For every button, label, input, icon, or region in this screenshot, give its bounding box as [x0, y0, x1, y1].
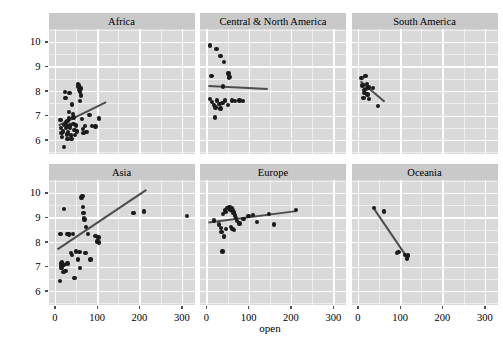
data-point [209, 74, 213, 78]
x-tick-mark [97, 306, 98, 309]
chart-root: logy open AfricaCentral & North AmericaS… [0, 0, 503, 342]
x-tick-mark [206, 306, 207, 309]
data-point [142, 209, 146, 213]
x-tick-mark [248, 306, 249, 309]
regression-line [200, 29, 346, 154]
data-point [58, 232, 62, 236]
data-point [220, 101, 224, 105]
y-tick-mark [45, 217, 48, 218]
x-tick-label: 200 [126, 311, 152, 324]
data-point [218, 106, 222, 110]
facet-strip-label: South America [352, 13, 498, 29]
data-point [74, 123, 78, 127]
facet-panel [200, 29, 346, 154]
data-point [93, 124, 97, 128]
y-tick-mark [45, 66, 48, 67]
y-tick-label: 6 [19, 134, 41, 147]
data-point [220, 249, 224, 253]
facet-strip-label: Asia [49, 164, 195, 180]
x-tick-label: 100 [84, 311, 110, 324]
data-point [363, 74, 367, 78]
data-point [81, 211, 85, 215]
data-point [65, 119, 69, 123]
data-point [67, 91, 71, 95]
data-point [131, 211, 135, 215]
x-tick-label: 300 [169, 311, 195, 324]
y-axis-title: logy [0, 161, 38, 177]
facet-panel [352, 29, 498, 154]
x-tick-label: 100 [387, 311, 413, 324]
y-tick-label: 6 [19, 285, 41, 298]
data-point [69, 137, 73, 141]
facet-strip-label: Africa [49, 13, 195, 29]
y-tick-label: 10 [19, 35, 41, 48]
data-point [212, 218, 216, 222]
y-tick-label: 7 [19, 260, 41, 273]
x-tick-mark [400, 306, 401, 309]
y-tick-mark [45, 266, 48, 267]
x-tick-label: 0 [42, 311, 68, 324]
data-point [241, 217, 245, 221]
x-tick-label: 0 [193, 311, 219, 324]
data-point [65, 261, 69, 265]
y-tick-mark [45, 241, 48, 242]
data-point [58, 279, 62, 283]
x-tick-mark [181, 306, 182, 309]
data-point [79, 93, 83, 97]
facet-panel [352, 180, 498, 305]
data-point [63, 269, 67, 273]
data-point [76, 84, 80, 88]
regression-line [352, 29, 498, 154]
data-point [87, 113, 91, 117]
y-tick-label: 10 [19, 186, 41, 199]
data-point [83, 124, 87, 128]
x-tick-label: 0 [345, 311, 371, 324]
y-tick-mark [45, 290, 48, 291]
y-tick-mark [45, 90, 48, 91]
x-tick-mark [290, 306, 291, 309]
data-point [75, 129, 79, 133]
y-tick-label: 8 [19, 236, 41, 249]
data-point [97, 116, 101, 120]
data-point [72, 276, 76, 280]
data-point [214, 47, 218, 51]
y-tick-mark [45, 41, 48, 42]
y-tick-label: 8 [19, 85, 41, 98]
data-point [222, 234, 226, 238]
facet-strip-label: Oceania [352, 164, 498, 180]
y-tick-mark [45, 192, 48, 193]
data-point [218, 54, 222, 58]
facet-panel [49, 180, 195, 305]
data-point [82, 217, 86, 221]
data-point [382, 209, 386, 213]
data-point [68, 123, 72, 127]
data-point [405, 256, 409, 260]
data-point [83, 251, 87, 255]
data-point [208, 43, 212, 47]
data-point [88, 257, 92, 261]
facet-panel [200, 180, 346, 305]
x-axis-title: open [230, 322, 310, 334]
data-point [80, 194, 84, 198]
data-point [241, 99, 245, 103]
data-point [58, 118, 62, 122]
data-point [367, 97, 371, 101]
facet-strip-label: Europe [200, 164, 346, 180]
facet-panel [49, 29, 195, 154]
x-tick-mark [357, 306, 358, 309]
x-tick-mark [139, 306, 140, 309]
x-tick-mark [333, 306, 334, 309]
x-tick-mark [442, 306, 443, 309]
y-tick-label: 7 [19, 109, 41, 122]
regression-line [200, 180, 346, 305]
data-point [70, 102, 74, 106]
data-point [63, 96, 67, 100]
data-point [237, 221, 241, 225]
x-tick-mark [484, 306, 485, 309]
data-point [213, 115, 217, 119]
x-tick-label: 200 [278, 311, 304, 324]
y-tick-label: 9 [19, 60, 41, 73]
x-tick-label: 300 [472, 311, 498, 324]
data-point [70, 253, 74, 257]
x-tick-mark [54, 306, 55, 309]
